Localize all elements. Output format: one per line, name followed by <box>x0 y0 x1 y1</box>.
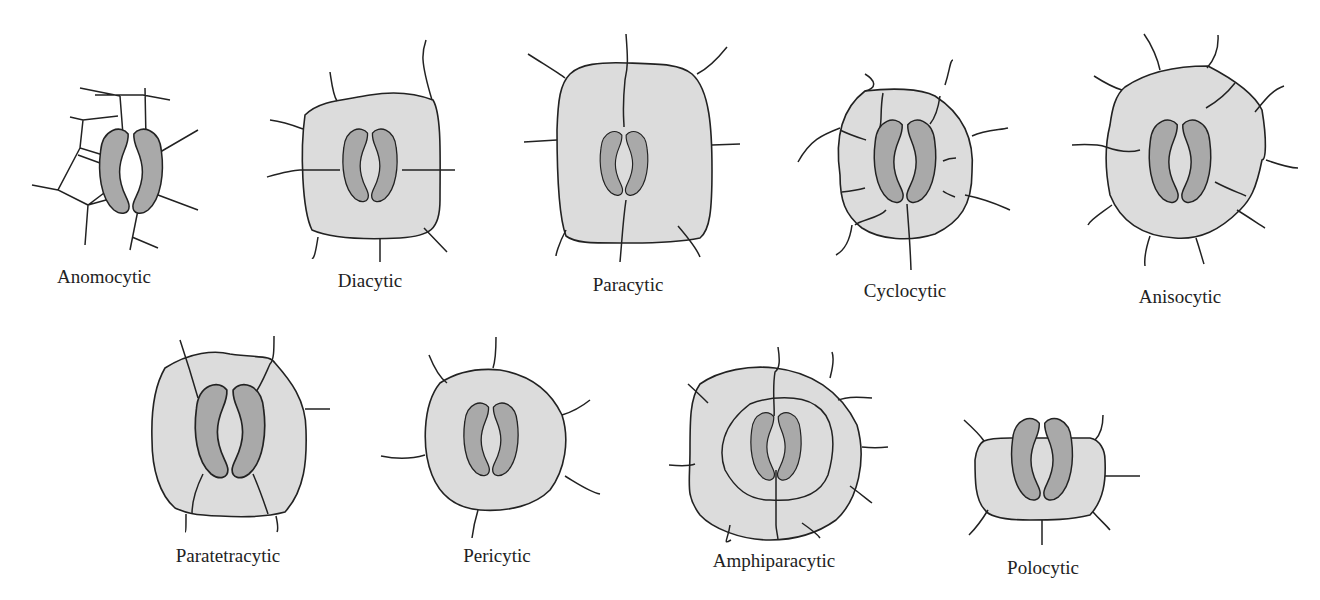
anomocytic-figure <box>32 88 198 250</box>
paratetracytic-figure <box>152 336 330 532</box>
label-anisocytic: Anisocytic <box>1139 286 1221 308</box>
paracytic-figure <box>524 34 740 262</box>
stomata-diagram <box>0 0 1320 600</box>
label-pericytic: Pericytic <box>463 545 531 567</box>
label-anomocytic: Anomocytic <box>57 266 151 288</box>
label-paratetracytic: Paratetracytic <box>176 545 280 567</box>
label-polocytic: Polocytic <box>1007 557 1079 579</box>
label-amphiparacytic: Amphiparacytic <box>713 550 835 572</box>
pericytic-figure <box>381 337 600 538</box>
label-cyclocytic: Cyclocytic <box>864 280 946 302</box>
label-diacytic: Diacytic <box>338 270 402 292</box>
diacytic-figure <box>267 40 455 262</box>
polocytic-figure <box>964 415 1140 545</box>
label-paracytic: Paracytic <box>593 274 664 296</box>
anisocytic-figure <box>1072 34 1298 266</box>
amphiparacytic-figure <box>669 347 888 542</box>
cyclocytic-figure <box>798 60 1010 270</box>
